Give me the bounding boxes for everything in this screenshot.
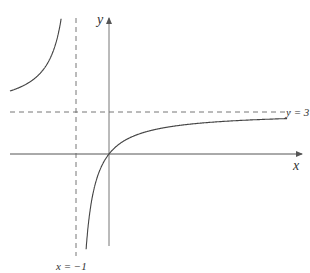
y-axis-label: y bbox=[95, 12, 104, 27]
curve-left-branch bbox=[10, 19, 61, 91]
x-axis-label: x bbox=[292, 158, 300, 173]
horizontal-asymptote-label: y = 3 bbox=[285, 106, 310, 118]
vertical-asymptote-label: x = −1 bbox=[55, 260, 87, 272]
curve-right-branch bbox=[86, 119, 287, 250]
graph-canvas: y x y = 3 x = −1 bbox=[0, 0, 310, 273]
